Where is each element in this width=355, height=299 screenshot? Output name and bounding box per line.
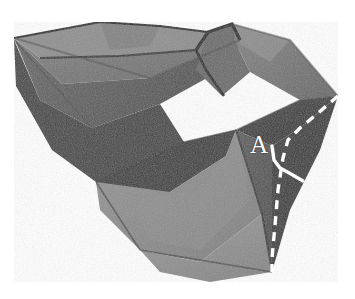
origami-illustration: [0, 0, 355, 299]
origami-body: [14, 22, 338, 282]
point-label-a: A: [250, 132, 268, 157]
origami-photo-figure: A: [0, 0, 355, 299]
